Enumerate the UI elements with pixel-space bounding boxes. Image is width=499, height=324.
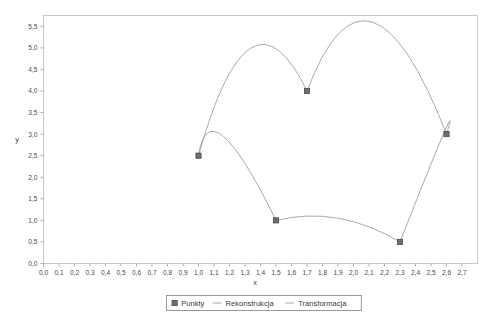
y-tick-label: 4,0 <box>28 87 37 94</box>
x-tick-label: 2,0 <box>349 269 358 276</box>
x-tick-label: 0,8 <box>163 269 172 276</box>
y-tick-label: 5,5 <box>28 23 37 30</box>
data-point-marker <box>304 88 309 93</box>
y-tick-label: 1,5 <box>28 195 37 202</box>
x-tick-label: 1,0 <box>194 269 203 276</box>
legend-item-label: Transformacja <box>298 299 347 308</box>
x-tick-label: 1,7 <box>302 269 311 276</box>
chart-canvas: 0,00,51,01,52,02,53,03,54,04,55,05,5 0,0… <box>0 0 499 324</box>
x-tick-label: 0,0 <box>39 269 48 276</box>
x-axis-label: x <box>253 278 257 287</box>
data-point-marker <box>444 132 449 137</box>
x-tick-label: 1,8 <box>318 269 327 276</box>
y-tick-label: 4,5 <box>28 66 37 73</box>
legend-item-label: Punkty <box>181 299 204 308</box>
x-tick-label: 0,7 <box>147 269 156 276</box>
y-tick-label: 0,0 <box>28 260 37 267</box>
x-tick-label: 1,3 <box>240 269 249 276</box>
y-tick-label: 5,0 <box>28 44 37 51</box>
x-tick-label: 0,3 <box>85 269 94 276</box>
x-tick-label: 2,2 <box>380 269 389 276</box>
y-axis-label: y <box>15 135 19 144</box>
x-tick-label: 1,5 <box>271 269 280 276</box>
x-tick-label: 0,1 <box>54 269 63 276</box>
y-tick-label: 2,0 <box>28 174 37 181</box>
y-tick-label: 0,5 <box>28 238 37 245</box>
x-tick-label: 2,7 <box>457 269 466 276</box>
legend-item-label: Rekonstrukcja <box>226 299 275 308</box>
y-tick-label: 3,5 <box>28 109 37 116</box>
x-tick-label: 0,4 <box>101 269 110 276</box>
legend: PunktyRekonstrukcjaTransformacja <box>167 296 362 311</box>
x-tick-label: 2,6 <box>442 269 451 276</box>
x-tick-label: 1,1 <box>209 269 218 276</box>
x-tick-label: 0,2 <box>70 269 79 276</box>
chart-container: 0,00,51,01,52,02,53,03,54,04,55,05,5 0,0… <box>0 0 499 324</box>
x-tick-label: 0,5 <box>116 269 125 276</box>
x-tick-label: 2,1 <box>364 269 373 276</box>
x-tick-label: 1,4 <box>256 269 265 276</box>
x-tick-label: 1,9 <box>333 269 342 276</box>
data-point-marker <box>196 153 201 158</box>
data-point-marker <box>397 239 402 244</box>
y-tick-label: 3,0 <box>28 131 37 138</box>
x-tick-label: 2,4 <box>411 269 420 276</box>
x-tick-label: 1,2 <box>225 269 234 276</box>
legend-square-marker-icon <box>172 300 177 305</box>
x-tick-label: 0,9 <box>178 269 187 276</box>
x-tick-label: 0,6 <box>132 269 141 276</box>
x-tick-label: 2,3 <box>395 269 404 276</box>
y-tick-label: 1,0 <box>28 217 37 224</box>
x-tick-label: 1,6 <box>287 269 296 276</box>
data-point-marker <box>273 218 278 223</box>
legend-items: PunktyRekonstrukcjaTransformacja <box>172 299 347 308</box>
plot-frame <box>44 16 478 264</box>
x-tick-label: 2,5 <box>426 269 435 276</box>
y-tick-label: 2,5 <box>28 152 37 159</box>
